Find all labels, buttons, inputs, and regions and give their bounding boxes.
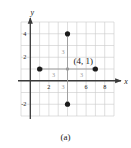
y-tick-label: -2 (21, 100, 26, 107)
y-axis-label: y (30, 8, 35, 17)
y-tick-label: 4 (23, 30, 26, 37)
distance-label: 3 (61, 48, 64, 55)
x-tick-label: 2 (47, 83, 50, 90)
distance-label: 3 (52, 71, 55, 78)
y-tick-label: 2 (23, 53, 26, 60)
right-point (93, 66, 98, 71)
center-point (66, 67, 69, 70)
center-point-label: (4, 1) (74, 56, 94, 66)
x-axis-label: x (123, 77, 128, 86)
figure-container: xy26842-23333(4, 1)(a) (0, 0, 131, 148)
left-point (37, 66, 42, 71)
top-point (65, 31, 70, 36)
bottom-point (65, 102, 70, 107)
x-tick-label: 6 (85, 83, 88, 90)
distance-label: 3 (80, 71, 83, 78)
coordinate-plane-figure: xy26842-23333(4, 1)(a) (0, 0, 131, 148)
figure-caption: (a) (61, 132, 71, 142)
distance-label: 3 (61, 83, 64, 90)
x-tick-label: 8 (103, 83, 106, 90)
